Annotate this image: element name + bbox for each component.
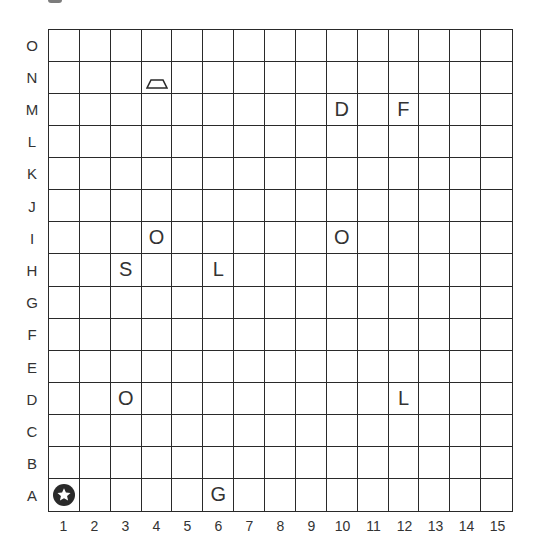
cell-h14[interactable]: [450, 254, 481, 286]
cell-m11[interactable]: [358, 94, 389, 126]
cell-d10[interactable]: [327, 383, 358, 415]
cell-o10[interactable]: [327, 30, 358, 62]
cell-i7[interactable]: [234, 222, 265, 254]
cell-a1[interactable]: [49, 479, 80, 511]
cell-f8[interactable]: [265, 319, 296, 351]
cell-g7[interactable]: [234, 287, 265, 319]
cell-g14[interactable]: [450, 287, 481, 319]
cell-k1[interactable]: [49, 158, 80, 190]
cell-f7[interactable]: [234, 319, 265, 351]
cell-g4[interactable]: [142, 287, 173, 319]
cell-b4[interactable]: [142, 447, 173, 479]
cell-o8[interactable]: [265, 30, 296, 62]
cell-f11[interactable]: [358, 319, 389, 351]
cell-h13[interactable]: [419, 254, 450, 286]
cell-i12[interactable]: [389, 222, 420, 254]
cell-c2[interactable]: [80, 415, 111, 447]
cell-b5[interactable]: [172, 447, 203, 479]
cell-m12[interactable]: F: [389, 94, 420, 126]
cell-a13[interactable]: [419, 479, 450, 511]
cell-k11[interactable]: [358, 158, 389, 190]
cell-g13[interactable]: [419, 287, 450, 319]
cell-n4[interactable]: [142, 62, 173, 94]
cell-i15[interactable]: [481, 222, 512, 254]
cell-a4[interactable]: [142, 479, 173, 511]
cell-f1[interactable]: [49, 319, 80, 351]
cell-e12[interactable]: [389, 351, 420, 383]
cell-n10[interactable]: [327, 62, 358, 94]
cell-j6[interactable]: [203, 190, 234, 222]
cell-a10[interactable]: [327, 479, 358, 511]
cell-j10[interactable]: [327, 190, 358, 222]
cell-b3[interactable]: [111, 447, 142, 479]
cell-c4[interactable]: [142, 415, 173, 447]
cell-m5[interactable]: [172, 94, 203, 126]
cell-b11[interactable]: [358, 447, 389, 479]
cell-n5[interactable]: [172, 62, 203, 94]
cell-n7[interactable]: [234, 62, 265, 94]
cell-g6[interactable]: [203, 287, 234, 319]
cell-c3[interactable]: [111, 415, 142, 447]
cell-d1[interactable]: [49, 383, 80, 415]
cell-g12[interactable]: [389, 287, 420, 319]
cell-e2[interactable]: [80, 351, 111, 383]
cell-l9[interactable]: [296, 126, 327, 158]
cell-m10[interactable]: D: [327, 94, 358, 126]
cell-e8[interactable]: [265, 351, 296, 383]
cell-c10[interactable]: [327, 415, 358, 447]
cell-b1[interactable]: [49, 447, 80, 479]
cell-h7[interactable]: [234, 254, 265, 286]
cell-a7[interactable]: [234, 479, 265, 511]
cell-j2[interactable]: [80, 190, 111, 222]
cell-k15[interactable]: [481, 158, 512, 190]
cell-f3[interactable]: [111, 319, 142, 351]
cell-l11[interactable]: [358, 126, 389, 158]
cell-j7[interactable]: [234, 190, 265, 222]
cell-o14[interactable]: [450, 30, 481, 62]
cell-f14[interactable]: [450, 319, 481, 351]
cell-l15[interactable]: [481, 126, 512, 158]
cell-m15[interactable]: [481, 94, 512, 126]
cell-c5[interactable]: [172, 415, 203, 447]
cell-f15[interactable]: [481, 319, 512, 351]
cell-d3[interactable]: O: [111, 383, 142, 415]
cell-e5[interactable]: [172, 351, 203, 383]
cell-f6[interactable]: [203, 319, 234, 351]
cell-m7[interactable]: [234, 94, 265, 126]
cell-d6[interactable]: [203, 383, 234, 415]
cell-f12[interactable]: [389, 319, 420, 351]
cell-h10[interactable]: [327, 254, 358, 286]
cell-g1[interactable]: [49, 287, 80, 319]
cell-b8[interactable]: [265, 447, 296, 479]
cell-l3[interactable]: [111, 126, 142, 158]
cell-i5[interactable]: [172, 222, 203, 254]
cell-k12[interactable]: [389, 158, 420, 190]
cell-e9[interactable]: [296, 351, 327, 383]
cell-e11[interactable]: [358, 351, 389, 383]
cell-n15[interactable]: [481, 62, 512, 94]
cell-o12[interactable]: [389, 30, 420, 62]
cell-g15[interactable]: [481, 287, 512, 319]
cell-e14[interactable]: [450, 351, 481, 383]
cell-h8[interactable]: [265, 254, 296, 286]
cell-o3[interactable]: [111, 30, 142, 62]
cell-h4[interactable]: [142, 254, 173, 286]
cell-g9[interactable]: [296, 287, 327, 319]
cell-b6[interactable]: [203, 447, 234, 479]
cell-j12[interactable]: [389, 190, 420, 222]
cell-a3[interactable]: [111, 479, 142, 511]
cell-d5[interactable]: [172, 383, 203, 415]
cell-n3[interactable]: [111, 62, 142, 94]
cell-i11[interactable]: [358, 222, 389, 254]
cell-n11[interactable]: [358, 62, 389, 94]
cell-h5[interactable]: [172, 254, 203, 286]
cell-m3[interactable]: [111, 94, 142, 126]
cell-o9[interactable]: [296, 30, 327, 62]
cell-m2[interactable]: [80, 94, 111, 126]
cell-k3[interactable]: [111, 158, 142, 190]
cell-i13[interactable]: [419, 222, 450, 254]
cell-g11[interactable]: [358, 287, 389, 319]
cell-e10[interactable]: [327, 351, 358, 383]
cell-i9[interactable]: [296, 222, 327, 254]
cell-d2[interactable]: [80, 383, 111, 415]
